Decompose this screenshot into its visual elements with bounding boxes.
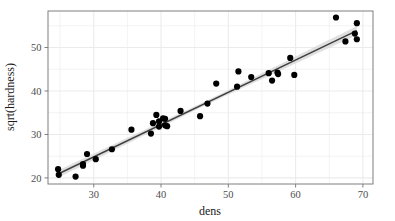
data-point bbox=[213, 80, 219, 86]
data-point bbox=[342, 38, 348, 44]
data-point bbox=[153, 112, 159, 118]
data-point bbox=[93, 156, 99, 162]
data-point bbox=[287, 55, 293, 61]
data-point bbox=[291, 72, 297, 78]
data-point bbox=[56, 172, 62, 178]
x-tick-label: 50 bbox=[223, 189, 234, 200]
x-axis-title: dens bbox=[199, 204, 221, 218]
data-point bbox=[234, 84, 240, 90]
data-point bbox=[235, 68, 241, 74]
data-point bbox=[352, 30, 358, 36]
y-tick-label: 40 bbox=[31, 86, 42, 97]
x-axis-ticks bbox=[94, 184, 363, 188]
scatter-plot-figure: 3040506070 20304050 dens sqrt(hardness) bbox=[0, 0, 395, 221]
data-point bbox=[164, 123, 170, 129]
data-point bbox=[275, 71, 281, 77]
data-point bbox=[72, 174, 78, 180]
data-point bbox=[333, 14, 339, 20]
y-axis-title: sqrt(hardness) bbox=[3, 63, 17, 131]
data-point bbox=[162, 116, 168, 122]
data-point bbox=[148, 130, 154, 136]
data-point bbox=[128, 127, 134, 133]
data-point bbox=[109, 146, 115, 152]
data-point bbox=[80, 161, 86, 167]
data-point bbox=[266, 70, 272, 76]
data-point bbox=[354, 20, 360, 26]
data-point bbox=[269, 77, 275, 83]
data-point bbox=[354, 36, 360, 42]
data-point bbox=[150, 120, 156, 126]
x-axis-tick-labels: 3040506070 bbox=[89, 189, 369, 200]
data-point bbox=[197, 113, 203, 119]
x-tick-label: 70 bbox=[358, 189, 369, 200]
y-tick-label: 20 bbox=[31, 173, 42, 184]
x-tick-label: 60 bbox=[290, 189, 301, 200]
data-point bbox=[84, 151, 90, 157]
y-tick-label: 30 bbox=[31, 129, 42, 140]
data-point bbox=[204, 100, 210, 106]
x-tick-label: 40 bbox=[156, 189, 167, 200]
data-point bbox=[248, 74, 254, 80]
chart-canvas: 3040506070 20304050 dens sqrt(hardness) bbox=[0, 0, 395, 221]
y-axis-tick-labels: 20304050 bbox=[31, 42, 42, 183]
data-point bbox=[55, 166, 61, 172]
y-axis-ticks bbox=[45, 48, 49, 178]
x-tick-label: 30 bbox=[89, 189, 100, 200]
y-tick-label: 50 bbox=[31, 42, 42, 53]
data-point bbox=[177, 108, 183, 114]
